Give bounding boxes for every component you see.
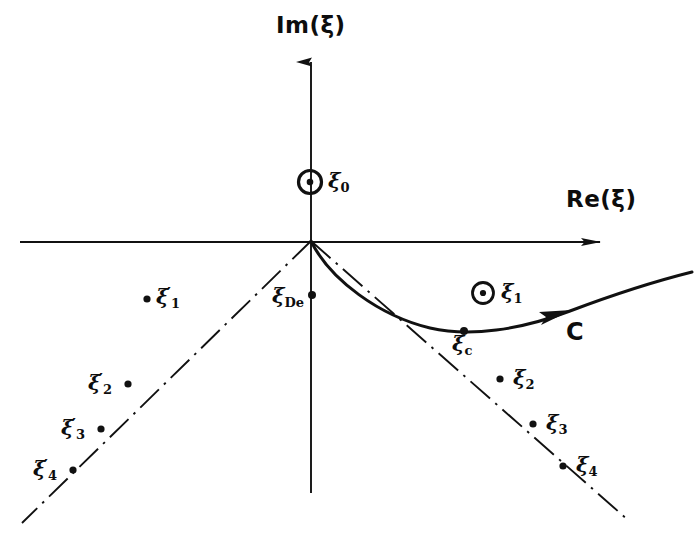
xi3-prime-subscript: 3 bbox=[76, 427, 85, 442]
xi3-subscript: 3 bbox=[558, 422, 567, 437]
point-label-xi4: ξ4 bbox=[576, 452, 598, 479]
contour-label: C bbox=[566, 318, 584, 346]
point-label-xiDe: ξDe bbox=[272, 283, 304, 310]
xi2-subscript: 2 bbox=[525, 377, 534, 392]
point-label-xi3-prime: ξ′3 bbox=[61, 414, 85, 442]
xi4-prime-subscript: 4 bbox=[48, 468, 57, 483]
point-label-xi2: ξ2 bbox=[513, 365, 535, 392]
point-label-xi3: ξ3 bbox=[546, 410, 568, 437]
point-marker-xi2 bbox=[496, 375, 503, 382]
point-marker-xi3 bbox=[529, 420, 536, 427]
xi1-prime-subscript: 1 bbox=[171, 296, 180, 311]
xi-glyph: ξ bbox=[513, 365, 525, 390]
xi-glyph: ξ bbox=[576, 452, 588, 477]
xi-glyph: ξ bbox=[272, 283, 284, 308]
point-label-xi1-prime: ξ′1 bbox=[156, 283, 180, 311]
xic-subscript: c bbox=[464, 343, 472, 358]
complex-plane-figure: Im(ξ) Re(ξ) C ξ0 ξ1 ξDe ξc ξ′1 ξ′2 ξ′3 ξ… bbox=[0, 0, 698, 552]
xi4-subscript: 4 bbox=[588, 464, 597, 479]
xi0-subscript: 0 bbox=[340, 180, 349, 195]
point-marker-xi1p bbox=[143, 295, 150, 302]
point-marker-xiDe bbox=[308, 291, 316, 299]
point-label-xi2-prime: ξ′2 bbox=[88, 369, 112, 397]
real-axis-label: Re(ξ) bbox=[566, 186, 636, 212]
point-marker-xi3p bbox=[97, 425, 104, 432]
xi1-subscript: 1 bbox=[513, 291, 522, 306]
xi-glyph: ξ bbox=[501, 279, 513, 304]
xi2-prime-subscript: 2 bbox=[103, 382, 112, 397]
pole-label-xi1: ξ1 bbox=[501, 279, 523, 306]
point-marker-xi4 bbox=[559, 462, 566, 469]
xiDe-subscript: De bbox=[284, 295, 304, 310]
xi-glyph: ξ bbox=[546, 410, 558, 435]
point-marker-xi4p bbox=[69, 466, 76, 473]
xi-glyph: ξ bbox=[452, 331, 464, 356]
pole-label-xi0: ξ0 bbox=[328, 168, 350, 195]
point-marker-xi2p bbox=[124, 380, 131, 387]
point-label-xic: ξc bbox=[452, 331, 472, 358]
pole-marker-xi0 bbox=[299, 171, 322, 194]
point-label-xi4-prime: ξ′4 bbox=[33, 455, 57, 483]
pole-marker-xi1 bbox=[473, 283, 494, 304]
xi-glyph: ξ bbox=[328, 168, 340, 193]
imaginary-axis-label: Im(ξ) bbox=[276, 12, 346, 38]
